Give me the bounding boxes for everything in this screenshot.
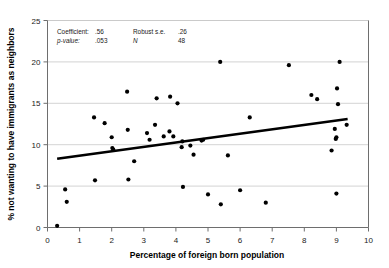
data-point: [264, 201, 268, 205]
robust-se-value: .26: [178, 28, 187, 35]
data-point: [191, 153, 195, 157]
data-point: [175, 101, 179, 105]
x-tick-label-0: 0: [45, 236, 50, 245]
data-point: [287, 63, 291, 67]
data-point: [334, 191, 338, 195]
data-point: [153, 123, 157, 127]
coefficient-value: .56: [95, 28, 104, 35]
data-point: [63, 187, 67, 191]
data-point: [248, 115, 252, 119]
data-point: [168, 95, 172, 99]
data-point: [126, 177, 130, 181]
x-tick-label-9: 9: [334, 236, 339, 245]
chart-canvas: 012345678910 0510152025 Percentage of fo…: [0, 0, 389, 268]
x-tick-label-10: 10: [364, 236, 373, 245]
pvalue-label: p-value:: [56, 37, 80, 45]
data-point: [188, 143, 192, 147]
data-point: [103, 121, 107, 125]
data-point: [167, 129, 171, 133]
x-tick-label-4: 4: [174, 236, 179, 245]
data-point: [315, 97, 319, 101]
n-label: N: [133, 37, 138, 44]
data-point: [92, 115, 96, 119]
data-point: [126, 128, 130, 132]
coefficient-label: Coefficient:: [57, 28, 89, 35]
x-tick-label-5: 5: [206, 236, 211, 245]
data-point: [147, 138, 151, 142]
x-axis-title: Percentage of foreign born population: [130, 250, 284, 260]
n-value: 48: [178, 37, 186, 44]
x-tick-label-2: 2: [109, 236, 114, 245]
data-point: [333, 127, 337, 131]
y-tick-label-20: 20: [32, 58, 41, 67]
data-point: [55, 224, 59, 228]
robust-se-label: Robust s.e.: [133, 28, 166, 35]
scatter-chart: 012345678910 0510152025 Percentage of fo…: [0, 0, 389, 268]
data-point: [338, 60, 342, 64]
data-point: [219, 202, 223, 206]
data-point: [334, 135, 338, 139]
y-tick-label-0: 0: [36, 224, 41, 233]
y-tick-label-10: 10: [32, 141, 41, 150]
data-point: [226, 153, 230, 157]
data-point: [329, 148, 333, 152]
pvalue-value: .053: [95, 37, 108, 44]
data-point: [132, 159, 136, 163]
data-point: [345, 123, 349, 127]
data-point: [155, 96, 159, 100]
data-point: [336, 102, 340, 106]
data-point: [218, 60, 222, 64]
x-tick-label-8: 8: [302, 236, 307, 245]
data-point: [238, 188, 242, 192]
data-point: [171, 134, 175, 138]
y-tick-label-15: 15: [32, 99, 41, 108]
data-point: [162, 134, 166, 138]
data-point: [309, 93, 313, 97]
x-tick-label-3: 3: [142, 236, 147, 245]
data-point: [110, 135, 114, 139]
data-point: [180, 145, 184, 149]
data-point: [93, 178, 97, 182]
data-point: [206, 192, 210, 196]
y-axis-title: % not wanting to have immigrants as neig…: [6, 27, 16, 220]
data-point: [65, 200, 69, 204]
x-tick-label-6: 6: [238, 236, 243, 245]
x-tick-label-1: 1: [77, 236, 82, 245]
y-tick-label-5: 5: [36, 182, 41, 191]
x-tick-label-7: 7: [270, 236, 275, 245]
data-point: [125, 90, 129, 94]
y-tick-label-25: 25: [32, 17, 41, 26]
data-point: [335, 86, 339, 90]
data-point: [145, 131, 149, 135]
data-point: [181, 185, 185, 189]
